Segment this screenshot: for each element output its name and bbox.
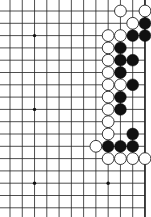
black-stone[interactable] [139, 30, 151, 42]
white-stone[interactable] [90, 140, 102, 152]
black-stone[interactable] [115, 54, 127, 66]
black-stone[interactable] [115, 67, 127, 79]
black-stone[interactable] [115, 91, 127, 103]
white-stone[interactable] [139, 153, 151, 165]
star-point [33, 108, 36, 111]
white-stone[interactable] [115, 5, 127, 17]
white-stone[interactable] [102, 128, 114, 140]
black-stone[interactable] [115, 104, 127, 116]
white-stone[interactable] [102, 91, 114, 103]
star-point [33, 34, 36, 37]
white-stone[interactable] [102, 116, 114, 128]
white-stone[interactable] [102, 67, 114, 79]
white-stone[interactable] [102, 104, 114, 116]
black-stone[interactable] [139, 17, 151, 29]
white-stone[interactable] [115, 30, 127, 42]
black-stone[interactable] [127, 128, 139, 140]
white-stone[interactable] [102, 153, 114, 165]
go-board[interactable] [0, 0, 151, 217]
go-board-svg[interactable] [0, 0, 151, 217]
black-stone[interactable] [102, 140, 114, 152]
white-stone[interactable] [102, 42, 114, 54]
white-stone[interactable] [102, 79, 114, 91]
white-stone[interactable] [115, 79, 127, 91]
white-stone[interactable] [102, 54, 114, 66]
star-point [33, 182, 36, 185]
white-stone[interactable] [127, 153, 139, 165]
white-stone[interactable] [115, 153, 127, 165]
black-stone[interactable] [127, 30, 139, 42]
black-stone[interactable] [127, 54, 139, 66]
white-stone[interactable] [102, 30, 114, 42]
star-point [106, 182, 109, 185]
black-stone[interactable] [127, 79, 139, 91]
black-stone[interactable] [115, 140, 127, 152]
white-stone[interactable] [139, 5, 151, 17]
black-stone[interactable] [127, 140, 139, 152]
black-stone[interactable] [115, 42, 127, 54]
white-stone[interactable] [127, 17, 139, 29]
